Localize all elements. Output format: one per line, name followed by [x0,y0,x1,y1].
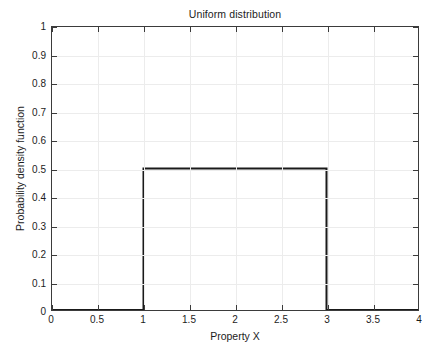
x-tick-label: 2.5 [274,314,288,325]
x-axis-tick [282,27,283,32]
x-axis-tick [236,305,237,310]
y-gridline [52,255,418,256]
x-tick-label: 2 [232,314,238,325]
x-axis-tick [328,305,329,310]
y-gridline [52,56,418,57]
y-axis-tick [52,227,57,228]
y-gridline [52,284,418,285]
y-axis-tick [413,27,418,28]
y-axis-tick [52,56,57,57]
y-axis-tick [52,170,57,171]
x-gridline [328,27,329,310]
y-gridline [52,113,418,114]
x-axis-tick [328,27,329,32]
y-axis-tick [52,255,57,256]
y-axis-tick [52,27,57,28]
y-axis-tick [52,84,57,85]
y-axis-label: Probability density function [12,26,28,311]
y-axis-tick [52,113,57,114]
x-tick-label: 1 [140,314,146,325]
y-axis-tick [413,113,418,114]
x-axis-tick [190,305,191,310]
y-axis-tick [413,56,418,57]
x-gridline [374,27,375,310]
y-axis-tick [413,198,418,199]
x-gridline [236,27,237,310]
x-axis-tick [374,27,375,32]
x-tick-label: 0.5 [90,314,104,325]
x-axis-tick [144,27,145,32]
data-line-layer [52,27,418,310]
x-tick-label: 3.5 [366,314,380,325]
y-axis-tick [52,198,57,199]
x-axis-tick [144,305,145,310]
y-axis-tick [413,284,418,285]
y-axis-tick [52,284,57,285]
uniform-pdf-line [52,169,418,311]
x-axis-tick [52,305,53,310]
y-axis-tick [52,141,57,142]
y-axis-tick [413,84,418,85]
x-gridline [190,27,191,310]
x-gridline [98,27,99,310]
y-gridline [52,198,418,199]
chart-title: Uniform distribution [51,8,419,20]
figure-canvas: Uniform distribution Property X Probabil… [0,0,439,353]
x-tick-label: 1.5 [182,314,196,325]
x-tick-label: 0 [48,314,54,325]
y-gridline [52,227,418,228]
y-gridline [52,84,418,85]
x-tick-label: 4 [416,314,422,325]
x-axis-tick [98,27,99,32]
x-tick-label: 3 [324,314,330,325]
x-axis-tick [282,305,283,310]
x-axis-tick [374,305,375,310]
y-axis-tick [413,141,418,142]
x-axis-tick [190,27,191,32]
y-gridline [52,141,418,142]
y-gridline [52,170,418,171]
x-axis-tick [98,305,99,310]
y-axis-tick [413,255,418,256]
x-gridline [282,27,283,310]
y-axis-tick [413,170,418,171]
y-axis-tick [413,227,418,228]
x-gridline [144,27,145,310]
plot-axes [51,26,419,311]
x-axis-label: Property X [51,330,419,342]
x-axis-tick [236,27,237,32]
